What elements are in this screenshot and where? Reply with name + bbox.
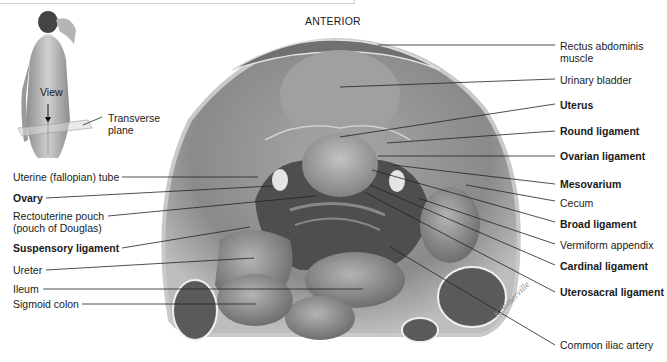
transverse-plane-label-line1: Transverse [108, 112, 160, 124]
label-mesovarium: Mesovarium [560, 178, 621, 190]
label-sigmoid-colon: Sigmoid colon [13, 298, 79, 310]
label-rectus-abdominis-muscle: muscle [560, 52, 593, 64]
label-rectus-abdominis: Rectus abdominis [560, 40, 643, 52]
label-ureter: Ureter [13, 264, 42, 276]
label-uterine-tube: Uterine (fallopian) tube [13, 171, 119, 183]
label-broad-ligament: Broad ligament [560, 218, 636, 230]
label-ileum: Ileum [13, 283, 39, 295]
label-uterosacral-ligament: Uterosacral ligament [560, 286, 664, 298]
label-suspensory-ligament: Suspensory ligament [13, 242, 119, 254]
label-ovary: Ovary [13, 192, 43, 204]
label-cardinal-ligament: Cardinal ligament [560, 260, 648, 272]
transverse-plane-label-line2: plane [108, 124, 134, 136]
label-ovarian-ligament: Ovarian ligament [560, 150, 645, 162]
orientation-label-anterior: ANTERIOR [305, 15, 361, 27]
label-common-iliac-artery: Common iliac artery [560, 339, 653, 351]
label-rectouterine-pouch: Rectouterine pouch [13, 210, 104, 222]
inset-figure-back-view [18, 11, 102, 158]
label-pouch-of-douglas: (pouch of Douglas) [13, 222, 102, 234]
label-urinary-bladder: Urinary bladder [560, 74, 632, 86]
pelvic-cavity-dome [163, 40, 518, 342]
label-vermiform-appendix: Vermiform appendix [560, 239, 653, 251]
label-uterus: Uterus [560, 99, 593, 111]
view-label: View [40, 86, 63, 98]
label-cecum: Cecum [560, 197, 593, 209]
label-round-ligament: Round ligament [560, 125, 639, 137]
